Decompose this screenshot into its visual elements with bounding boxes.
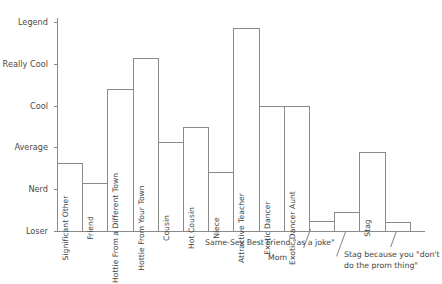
bar[interactable]: Exotic Dancer	[259, 106, 285, 232]
bar-label: Hottie From a Different Town	[111, 173, 120, 283]
bar[interactable]: Hot Cousin	[183, 127, 209, 233]
y-axis-tick-label-text: Loser	[26, 226, 48, 236]
bar[interactable]: Attractive Teacher	[233, 28, 259, 232]
bar-label: Significant Other	[61, 196, 70, 261]
callout-label-line: Stag because you "don't	[344, 250, 440, 261]
y-axis-tick-label-text: Average	[14, 142, 48, 152]
bar-label: Stag	[363, 219, 372, 236]
y-axis-tick-label-text: Cool	[30, 101, 48, 111]
bar[interactable]: Cousin	[158, 142, 184, 232]
bar[interactable]: Friend	[82, 183, 108, 232]
bar-label: Hottie From Your Town	[137, 185, 146, 270]
prom-date-coolness-bar-chart: LegendReally CoolCoolAverageNerdLoser Si…	[0, 0, 442, 284]
bar[interactable]: Niece	[208, 172, 234, 232]
y-axis-tick-label-text: Really Cool	[3, 59, 48, 69]
bar-label: Exotic Dancer Aunt	[288, 191, 297, 265]
y-axis-tick-label-text: Nerd	[28, 184, 48, 194]
callout-leader-line	[390, 231, 397, 247]
bar-label: Friend	[86, 216, 95, 240]
callout-label-line: Mom	[268, 253, 287, 264]
bar[interactable]: Exotic Dancer Aunt	[284, 106, 310, 232]
callout-label-line: do the prom thing"	[344, 261, 440, 272]
callout-label: Stag because you "don'tdo the prom thing…	[344, 250, 440, 271]
bar-label: Attractive Teacher	[237, 193, 246, 263]
y-axis-tick	[54, 106, 58, 107]
bar-label: Cousin	[162, 215, 171, 241]
y-axis-tick	[54, 64, 58, 65]
y-axis-tick	[54, 22, 58, 23]
bar[interactable]: Stag	[359, 152, 385, 232]
bar-label: Hot Cousin	[187, 207, 196, 249]
bar[interactable]: Hottie From Your Town	[133, 58, 159, 232]
bar[interactable]	[334, 212, 360, 232]
y-axis-tick-label-text: Legend	[18, 17, 48, 27]
bar[interactable]	[309, 221, 335, 232]
bar-label: Niece	[212, 217, 221, 239]
y-axis-tick	[54, 147, 58, 148]
callout-label: Mom	[268, 253, 287, 264]
callout-label: Same-Sex Best Friend "as a joke"	[205, 238, 335, 249]
callout-label-line: Same-Sex Best Friend "as a joke"	[205, 238, 335, 249]
bar[interactable]: Significant Other	[57, 163, 83, 232]
bar[interactable]: Hottie From a Different Town	[107, 89, 133, 232]
bar[interactable]	[385, 222, 411, 232]
